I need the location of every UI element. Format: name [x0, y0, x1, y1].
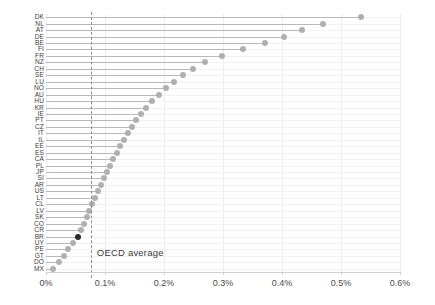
data-row — [46, 191, 400, 192]
data-point[interactable] — [171, 79, 177, 85]
data-row — [46, 140, 400, 141]
y-gridline — [46, 224, 400, 225]
x-tick-mark — [105, 272, 106, 275]
y-gridline — [46, 269, 400, 270]
data-row — [46, 62, 400, 63]
data-row — [46, 146, 400, 147]
stem-line — [46, 88, 166, 89]
stem-line — [46, 69, 193, 70]
data-point[interactable] — [129, 124, 135, 130]
data-row — [46, 127, 400, 128]
x-tick-label: 0.4% — [272, 278, 293, 288]
data-point[interactable] — [110, 156, 116, 162]
stem-line — [46, 237, 78, 238]
stem-line — [46, 178, 104, 179]
chart-container: DKNLATDEBEFIFRNZCHSELUNOAUHUKRIEPTCZITIL… — [0, 0, 435, 305]
stem-line — [46, 101, 152, 102]
x-tick-mark — [223, 272, 224, 275]
stem-line — [46, 24, 323, 25]
data-point[interactable] — [75, 234, 81, 240]
stem-line — [46, 62, 205, 63]
data-point[interactable] — [117, 143, 123, 149]
data-row — [46, 243, 400, 244]
data-point[interactable] — [84, 214, 90, 220]
y-gridline — [46, 204, 400, 205]
stem-line — [46, 43, 265, 44]
data-row — [46, 37, 400, 38]
data-point[interactable] — [101, 175, 107, 181]
data-point[interactable] — [138, 111, 144, 117]
data-row — [46, 101, 400, 102]
data-row — [46, 159, 400, 160]
data-row — [46, 172, 400, 173]
data-point[interactable] — [114, 150, 120, 156]
data-point[interactable] — [180, 72, 186, 78]
data-row — [46, 69, 400, 70]
data-point[interactable] — [104, 169, 110, 175]
category-label-mx: MX — [2, 265, 44, 272]
data-point[interactable] — [163, 85, 169, 91]
x-tick-label: 0.6% — [390, 278, 411, 288]
data-row — [46, 88, 400, 89]
data-point[interactable] — [262, 40, 268, 46]
data-point[interactable] — [125, 130, 131, 136]
data-point[interactable] — [95, 188, 101, 194]
stem-line — [46, 224, 84, 225]
data-point[interactable] — [281, 34, 287, 40]
stem-line — [46, 49, 243, 50]
data-point[interactable] — [92, 195, 98, 201]
stem-line — [46, 172, 107, 173]
stem-line — [46, 56, 222, 57]
stem-line — [46, 133, 128, 134]
data-point[interactable] — [149, 98, 155, 104]
stem-line — [46, 243, 73, 244]
y-gridline — [46, 230, 400, 231]
data-point[interactable] — [156, 92, 162, 98]
stem-line — [46, 75, 183, 76]
x-tick-mark — [164, 272, 165, 275]
stem-line — [46, 153, 117, 154]
data-point[interactable] — [358, 14, 364, 20]
data-point[interactable] — [107, 163, 113, 169]
data-row — [46, 82, 400, 83]
y-gridline — [46, 198, 400, 199]
stem-line — [46, 230, 81, 231]
data-point[interactable] — [65, 246, 71, 252]
data-point[interactable] — [219, 53, 225, 59]
data-point[interactable] — [50, 266, 56, 272]
stem-line — [46, 17, 361, 18]
stem-line — [46, 30, 302, 31]
data-point[interactable] — [240, 46, 246, 52]
y-gridline — [46, 262, 400, 263]
data-point[interactable] — [133, 117, 139, 123]
data-point[interactable] — [78, 227, 84, 233]
stem-line — [46, 140, 124, 141]
data-point[interactable] — [61, 253, 67, 259]
data-row — [46, 237, 400, 238]
data-point[interactable] — [121, 137, 127, 143]
data-point[interactable] — [202, 59, 208, 65]
data-point[interactable] — [98, 182, 104, 188]
data-point[interactable] — [320, 21, 326, 27]
data-row — [46, 56, 400, 57]
stem-line — [46, 217, 87, 218]
stem-line — [46, 159, 113, 160]
data-row — [46, 198, 400, 199]
x-gridline — [341, 14, 342, 272]
stem-line — [46, 211, 89, 212]
x-tick-label: 0.1% — [95, 278, 116, 288]
data-point[interactable] — [70, 240, 76, 246]
x-tick-label: 0% — [39, 278, 52, 288]
y-gridline — [46, 211, 400, 212]
data-point[interactable] — [81, 221, 87, 227]
data-point[interactable] — [143, 105, 149, 111]
data-point[interactable] — [56, 259, 62, 265]
data-row — [46, 178, 400, 179]
stem-line — [46, 37, 284, 38]
data-point[interactable] — [299, 27, 305, 33]
stem-line — [46, 198, 95, 199]
stem-line — [46, 114, 141, 115]
data-point[interactable] — [190, 66, 196, 72]
data-row — [46, 133, 400, 134]
x-tick-mark — [282, 272, 283, 275]
